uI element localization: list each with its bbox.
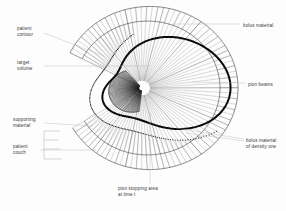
- pion-radiotherapy-diagram: patient contour target volume supporting…: [0, 0, 286, 211]
- label-patient-contour-line2: contour: [17, 32, 34, 37]
- label-target-volume-line1: target: [17, 60, 30, 65]
- label-supporting-material-line1: supporting: [13, 117, 36, 122]
- label-supporting-material: supporting material: [13, 117, 36, 128]
- label-pion-beams: pion beams: [248, 82, 274, 87]
- patient-couch: [44, 131, 62, 159]
- label-supporting-material-line2: material: [13, 123, 30, 128]
- label-bolus-material-line1: bolus material: [243, 23, 273, 28]
- label-bolus-density-line1: bolus material: [246, 138, 276, 143]
- label-target-volume: target volume: [17, 60, 33, 71]
- label-stopping-area-line2: at time t: [118, 192, 136, 197]
- label-bolus-material-density: bolus material of density one: [246, 138, 277, 149]
- label-patient-couch-line1: patient: [13, 144, 28, 149]
- label-stopping-area-line1: pion stopping area: [118, 186, 158, 191]
- label-pion-beams-line1: pion beams: [248, 82, 274, 87]
- figure-canvas: patient contour target volume supporting…: [0, 0, 286, 211]
- label-patient-couch-line2: couch: [13, 150, 26, 155]
- label-patient-couch: patient couch: [13, 144, 28, 155]
- label-bolus-density-line2: of density one: [246, 144, 277, 149]
- label-bolus-material: bolus material: [243, 23, 273, 28]
- label-patient-contour: patient contour: [17, 26, 34, 37]
- label-pion-stopping-area: pion stopping area at time t: [118, 186, 158, 197]
- label-patient-contour-line1: patient: [17, 26, 32, 31]
- label-target-volume-line2: volume: [17, 66, 33, 71]
